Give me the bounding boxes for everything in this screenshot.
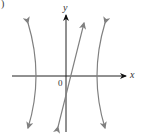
x-axis-label: x [130, 69, 134, 80]
slant-asymptote-line [58, 23, 84, 127]
graph-canvas [0, 0, 141, 137]
y-axis-label: y [63, 2, 67, 13]
origin-label: 0 [58, 78, 63, 88]
